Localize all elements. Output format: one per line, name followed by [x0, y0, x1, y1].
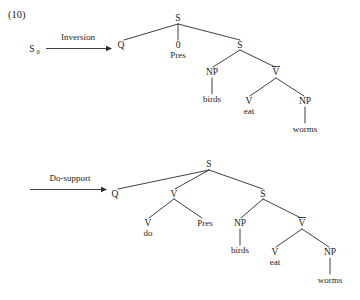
example-number: (10)	[8, 9, 26, 21]
node-pres: Pres	[170, 50, 186, 60]
branch-v-to-pres	[174, 199, 202, 218]
syntax-derivation-figure: (10) S 0 Inversion	[0, 0, 360, 300]
node-embedded-s: S	[237, 40, 242, 50]
branch-s-to-vbar	[240, 50, 275, 67]
derivation-diagram: (10) S 0 Inversion	[0, 0, 360, 300]
terminal-do: do	[144, 228, 154, 238]
node-vbar: V	[299, 218, 306, 228]
node-v-aux: V	[171, 189, 178, 199]
rule-label-do-support: Do-support	[50, 173, 91, 183]
node-vbar-group: V	[272, 67, 280, 78]
node-v-head: V	[246, 96, 253, 106]
terminal-worms: worms	[293, 124, 318, 134]
rule-label-inversion: Inversion	[61, 32, 95, 42]
node-root-s: S	[175, 13, 180, 23]
source-node-s0: S 0	[29, 44, 39, 55]
source-s-label: S	[29, 44, 34, 54]
node-v-head: V	[272, 247, 279, 257]
terminal-birds: birds	[203, 94, 221, 104]
derivation-inversion: S 0 Inversion S	[29, 13, 317, 134]
arrow-head	[101, 187, 107, 192]
branch-root-to-q	[118, 170, 209, 189]
node-embedded-s: S	[260, 189, 265, 199]
node-np-subject: NP	[234, 218, 246, 228]
branch-s-to-np	[213, 50, 240, 67]
terminal-eat: eat	[270, 257, 281, 267]
branch-s-to-np	[241, 199, 263, 218]
node-zero: 0	[176, 40, 181, 50]
branch-s-to-vbar	[263, 199, 301, 218]
terminal-eat: eat	[244, 106, 255, 116]
branch-vbar-to-v	[250, 78, 276, 96]
branch-root-to-q	[124, 24, 178, 40]
terminal-birds: birds	[231, 245, 249, 255]
terminal-worms: worms	[318, 275, 343, 285]
branch-root-to-v	[175, 170, 209, 189]
node-q: Q	[112, 189, 119, 199]
node-pres: Pres	[197, 218, 213, 228]
node-v-do: V	[145, 218, 152, 228]
branch-vbar-to-v	[276, 229, 302, 247]
node-q: Q	[118, 40, 125, 50]
source-s-subscript: 0	[36, 48, 39, 55]
node-np-object: NP	[299, 96, 311, 106]
derivation-do-support: Do-support S Q V	[30, 159, 343, 285]
rule-arrow-inversion: Inversion	[46, 32, 112, 51]
branch-root-to-s	[209, 170, 263, 189]
node-np-object: NP	[324, 247, 336, 257]
node-np-subject: NP	[206, 67, 218, 77]
branch-vbar-to-np	[276, 78, 304, 96]
branch-vbar-to-np	[302, 229, 329, 247]
branch-v-to-vdo	[149, 199, 174, 218]
rule-arrow-do-support: Do-support	[30, 173, 107, 192]
node-root-s: S	[206, 159, 211, 169]
node-vbar-group: V	[298, 218, 306, 229]
arrow-head	[106, 46, 112, 51]
branch-root-to-s	[178, 24, 240, 40]
node-vbar: V	[273, 67, 280, 77]
